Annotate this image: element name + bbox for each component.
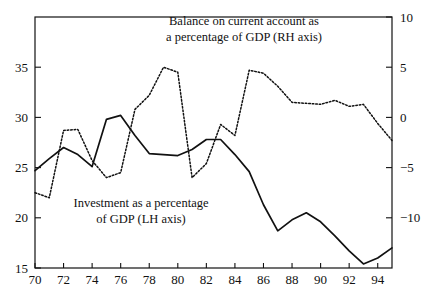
balance-annotation-line-2: a percentage of GDP (RH axis) bbox=[166, 30, 322, 44]
x-axis-tick-label: 72 bbox=[57, 272, 70, 287]
x-axis-tick-label: 86 bbox=[257, 272, 271, 287]
x-axis-tick-label: 70 bbox=[29, 272, 42, 287]
right-axis-tick-label: −10 bbox=[400, 210, 420, 225]
x-axis-tick-label: 76 bbox=[114, 272, 128, 287]
x-axis-tick-label: 92 bbox=[343, 272, 356, 287]
x-axis-tick-label: 82 bbox=[200, 272, 213, 287]
x-axis-tick-label: 94 bbox=[371, 272, 385, 287]
line-chart: 1520253035 −10−50510 7072747678808284868… bbox=[0, 0, 432, 308]
x-axis-tick-label: 80 bbox=[171, 272, 184, 287]
x-axis-tick-label: 74 bbox=[86, 272, 100, 287]
right-axis-tick-label: 5 bbox=[400, 60, 407, 75]
right-axis-tick-label: 10 bbox=[400, 10, 413, 25]
right-axis-tick-label: −5 bbox=[400, 160, 414, 175]
right-axis-tick-label: 0 bbox=[400, 110, 407, 125]
x-axis-tick-label: 90 bbox=[314, 272, 327, 287]
left-axis-tick-label: 30 bbox=[15, 110, 28, 125]
chart-figure: 1520253035 −10−50510 7072747678808284868… bbox=[0, 0, 432, 308]
left-axis-tick-label: 15 bbox=[15, 261, 28, 276]
balance-annotation-line-1: Balance on current account as bbox=[169, 14, 319, 28]
investment-annotation-line-1: Investment as a percentage bbox=[73, 196, 208, 210]
left-axis-tick-label: 35 bbox=[15, 60, 28, 75]
left-axis-tick-label: 25 bbox=[15, 160, 28, 175]
left-axis-tick-label: 20 bbox=[15, 210, 28, 225]
x-axis-tick-label: 84 bbox=[228, 272, 242, 287]
x-axis-tick-label: 78 bbox=[143, 272, 156, 287]
investment-annotation-line-2: of GDP (LH axis) bbox=[96, 212, 185, 226]
x-axis-tick-label: 88 bbox=[286, 272, 299, 287]
